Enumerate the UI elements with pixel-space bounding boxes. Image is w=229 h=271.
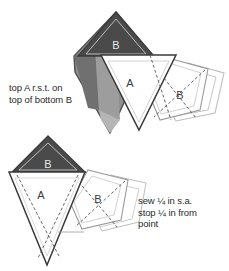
caption-top-line1: top A r.s.t. on xyxy=(9,82,72,94)
lower-triangle-A xyxy=(9,172,85,265)
caption-bottom-line1: sew ¼ in s.a. xyxy=(138,195,197,207)
label-lower-B-right: B xyxy=(94,193,101,205)
diagram-page: · xyxy=(0,0,229,271)
caption-bottom-line3: point xyxy=(138,218,197,230)
caption-bottom-instruction: sew ¼ in s.a. stop ¼ in from point xyxy=(138,195,197,230)
quilting-diagram: B A B xyxy=(0,0,229,271)
lower-assembly: B A B xyxy=(9,136,146,265)
label-lower-A: A xyxy=(37,189,45,201)
caption-bottom-line2: stop ¼ in from xyxy=(138,207,197,219)
upper-assembly: B A B xyxy=(74,12,224,133)
caption-top-line2: top of bottom B xyxy=(9,94,72,106)
label-upper-A: A xyxy=(126,77,134,89)
label-upper-B-right: B xyxy=(176,89,183,101)
lower-A-body xyxy=(9,172,85,265)
label-upper-B-top: B xyxy=(112,39,119,51)
caption-top-instruction: top A r.s.t. on top of bottom B xyxy=(9,82,72,105)
label-lower-B-top: B xyxy=(44,158,51,170)
